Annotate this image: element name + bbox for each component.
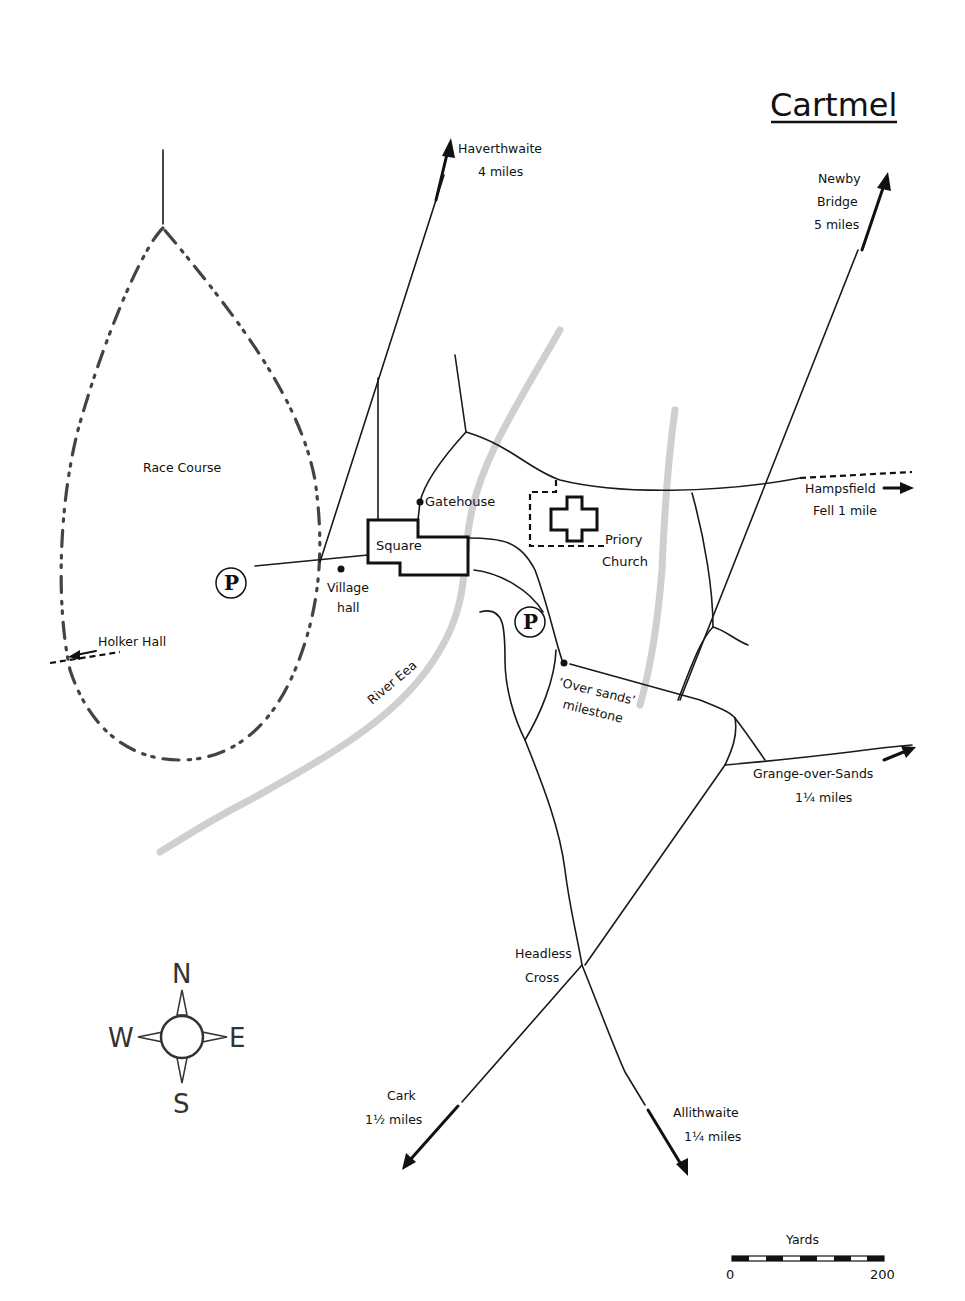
newby-label-1: Newby xyxy=(818,171,861,186)
haverthwaite-label: Haverthwaite xyxy=(458,141,542,156)
priory-church xyxy=(530,480,605,546)
priory-label-2: Church xyxy=(602,554,648,569)
gatehouse-label: Gatehouse xyxy=(425,494,495,509)
compass-n: N xyxy=(172,959,191,989)
race-course-track xyxy=(61,150,320,760)
priory-label-1: Priory xyxy=(605,532,643,547)
svg-text:P: P xyxy=(523,610,538,634)
village-hall-label-1: Village xyxy=(327,580,369,595)
village-hall-label-2: hall xyxy=(337,600,360,615)
arrow-icon-hampsfield xyxy=(900,482,914,494)
compass-rose-icon: N E S W xyxy=(108,959,245,1119)
svg-text:Cartmel: Cartmel xyxy=(770,86,897,124)
scale-unit: Yards xyxy=(785,1232,819,1247)
arrow-icon xyxy=(68,650,80,660)
parking-icon-west: P xyxy=(216,568,246,598)
roads xyxy=(255,175,912,1105)
holker-hall-path xyxy=(50,650,120,663)
arrow-icon-newby xyxy=(877,172,891,191)
allithwaite-distance: 1¼ miles xyxy=(684,1129,741,1144)
river-label: River Eea xyxy=(364,657,419,707)
gatehouse-marker xyxy=(417,499,424,506)
scale-max: 200 xyxy=(870,1267,895,1282)
headless-cross-label-1: Headless xyxy=(515,946,572,961)
direction-arrows xyxy=(402,138,916,1176)
compass-e: E xyxy=(229,1023,245,1053)
haverthwaite-distance: 4 miles xyxy=(478,164,523,179)
grange-distance: 1¼ miles xyxy=(795,790,852,805)
compass-w: W xyxy=(108,1023,134,1053)
race-course-label: Race Course xyxy=(143,460,222,475)
milestone-marker xyxy=(561,660,568,667)
square-label: Square xyxy=(376,538,422,553)
scale-min: 0 xyxy=(726,1267,734,1282)
hampsfield-label: Hampsfield xyxy=(805,481,876,496)
newby-label-2: Bridge xyxy=(817,194,858,209)
scale-bar: Yards 0 200 xyxy=(726,1232,895,1282)
grange-label: Grange-over-Sands xyxy=(753,766,873,781)
compass-s: S xyxy=(173,1089,190,1119)
allithwaite-label: Allithwaite xyxy=(673,1105,739,1120)
holker-hall-label: Holker Hall xyxy=(98,634,166,649)
hampsfield-distance: Fell 1 mile xyxy=(813,503,877,518)
cartmel-map: Cartmel River Eea Race Course Holker Hal… xyxy=(0,0,965,1301)
parking-icon-east: P xyxy=(515,607,545,637)
cark-distance: 1½ miles xyxy=(365,1112,422,1127)
headless-cross-label-2: Cross xyxy=(525,970,559,985)
cark-label: Cark xyxy=(387,1088,417,1103)
newby-distance: 5 miles xyxy=(814,217,859,232)
village-hall-marker xyxy=(338,566,345,573)
map-title: Cartmel xyxy=(770,86,897,124)
svg-text:P: P xyxy=(224,571,239,595)
arrow-icon-haverthwaite xyxy=(442,138,455,158)
